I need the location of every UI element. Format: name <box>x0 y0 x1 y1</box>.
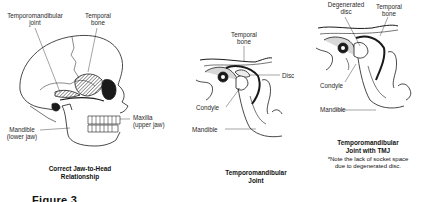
label-mandible: Mandible (lower jaw) <box>2 126 42 141</box>
caption-skull: Correct Jaw-to-Head Relationship <box>30 165 130 180</box>
label-line: disc <box>326 8 366 15</box>
label-line: (lower jaw) <box>2 133 42 140</box>
label-maxilla: Maxilla (upper jaw) <box>133 114 165 129</box>
caption-tmj: Temporomandibular Joint <box>216 169 296 184</box>
label-line: Degenerated <box>326 1 366 8</box>
label-line: bone <box>82 19 114 26</box>
label-degenerated-disc: Degenerated disc <box>326 1 366 16</box>
note-degenerated-disc: *Note the lack of socket space due to de… <box>314 156 422 170</box>
label-condyle-3: Condyle <box>320 82 343 89</box>
caption-line: Joint <box>216 177 296 185</box>
label-mandible-2: Mandible <box>192 126 218 133</box>
label-line: Maxilla <box>133 114 165 121</box>
caption-line: Correct Jaw-to-Head <box>30 165 130 173</box>
label-line: Temporal <box>229 31 259 38</box>
tmj-normal-illustration <box>196 46 282 137</box>
label-line: bone <box>229 38 259 45</box>
label-line: Mandible <box>2 126 42 133</box>
figure-label: Figure 3 <box>32 194 77 202</box>
label-temporal-bone-2: Temporal bone <box>229 31 259 46</box>
label-tmj: Temporomandibular joint <box>2 12 68 27</box>
caption-line: Temporomandibular <box>216 169 296 177</box>
caption-tmj-degenerated: Temporomandibular Joint with TMJ <box>320 139 416 154</box>
label-line: Temporomandibular <box>2 12 68 19</box>
label-line: Temporal <box>374 3 404 10</box>
tmj-degenerated-illustration <box>316 17 411 110</box>
label-line: bone <box>374 10 404 17</box>
caption-line: Joint with TMJ <box>320 147 416 155</box>
note-line: due to degenerated disc. <box>314 163 422 170</box>
label-mandible-3: Mandible <box>320 106 346 113</box>
label-temporal-bone: Temporal bone <box>82 12 114 27</box>
label-condyle: Condyle <box>196 104 219 111</box>
caption-line: Temporomandibular <box>320 139 416 147</box>
caption-line: Relationship <box>30 173 130 181</box>
note-line: *Note the lack of socket space <box>314 156 422 163</box>
label-line: (upper jaw) <box>133 121 165 128</box>
label-line: Temporal <box>82 12 114 19</box>
label-line: joint <box>2 19 68 26</box>
label-temporal-bone-3: Temporal bone <box>374 3 404 18</box>
label-disc: Disc <box>282 72 294 79</box>
